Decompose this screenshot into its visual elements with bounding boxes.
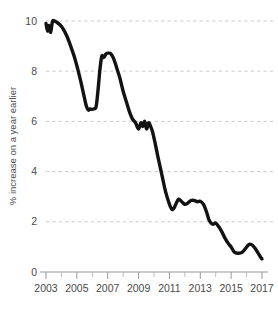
gridlines	[46, 21, 276, 222]
chart-container: 0246810 20032005200720092011201320152017…	[0, 0, 278, 315]
x-axis-tick-labels: 20032005200720092011201320152017	[34, 282, 274, 294]
y-tick-label-0: 0	[31, 266, 37, 278]
x-tick-label-2005: 2005	[65, 282, 89, 294]
series-group	[46, 20, 262, 258]
y-axis-label: % increase on a year earlier	[7, 87, 18, 205]
x-tick-label-2017: 2017	[250, 282, 274, 294]
y-tick-label-8: 8	[31, 65, 37, 77]
x-tick-label-2007: 2007	[96, 282, 120, 294]
x-tick-label-2011: 2011	[158, 282, 181, 294]
y-tick-label-6: 6	[31, 115, 37, 127]
x-tick-label-2009: 2009	[127, 282, 151, 294]
y-tick-label-4: 4	[31, 165, 37, 177]
y-tick-label-2: 2	[31, 215, 37, 227]
x-tick-label-2003: 2003	[34, 282, 58, 294]
line-chart: 0246810 20032005200720092011201320152017…	[0, 0, 278, 315]
y-tick-label-10: 10	[25, 15, 37, 27]
y-axis-tick-labels: 0246810	[25, 15, 37, 278]
series-line-0	[46, 20, 262, 258]
x-axis	[40, 272, 268, 279]
x-tick-label-2013: 2013	[189, 282, 213, 294]
x-tick-label-2015: 2015	[219, 282, 243, 294]
